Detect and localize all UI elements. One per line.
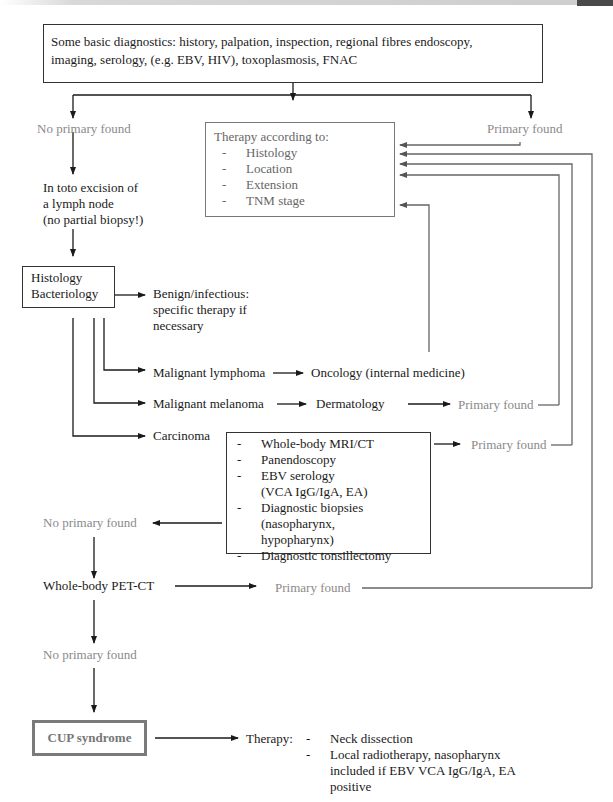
- workup-item: -EBV serology: [231, 468, 391, 484]
- histology-label: Histology: [31, 270, 82, 286]
- cup-therapy-item-cont: positive: [300, 779, 516, 795]
- benign-line1: Benign/infectious:: [153, 286, 249, 302]
- benign-line2: specific therapy if: [153, 302, 247, 318]
- cup-therapy-item: -Neck dissection: [300, 731, 516, 747]
- no-primary-found-1: No primary found: [37, 121, 131, 137]
- therapy-criterion: -Extension: [216, 177, 305, 193]
- primary-found-workup: Primary found: [471, 437, 546, 453]
- no-primary-found-2: No primary found: [43, 515, 137, 531]
- malignant-melanoma: Malignant melanoma: [153, 396, 264, 412]
- therapy-criterion: -Histology: [216, 145, 305, 161]
- dermatology: Dermatology: [316, 396, 385, 412]
- cup-therapy-label: Therapy:: [246, 731, 293, 747]
- no-primary-found-3: No primary found: [43, 647, 137, 663]
- basic-diagnostics-box: Some basic diagnostics: history, palpati…: [43, 24, 543, 83]
- workup-item: -Diagnostic biopsies: [231, 500, 391, 516]
- cup-therapy-list: -Neck dissection -Local radiotherapy, na…: [300, 731, 516, 795]
- bacteriology-label: Bacteriology: [31, 286, 98, 302]
- cup-therapy-item-cont: included if EBV VCA IgG/IgA, EA: [300, 763, 516, 779]
- basic-diagnostics-line1: Some basic diagnostics: history, palpati…: [51, 34, 472, 50]
- oncology: Oncology (internal medicine): [311, 365, 465, 381]
- cup-syndrome-box: CUP syndrome: [32, 720, 147, 756]
- therapy-box: Therapy according to: -Histology -Locati…: [205, 122, 395, 217]
- workup-item-cont: (nasopharynx,: [231, 516, 391, 532]
- histology-box: Histology Bacteriology: [22, 266, 115, 308]
- therapy-criteria-list: -Histology -Location -Extension -TNM sta…: [216, 145, 305, 209]
- workup-item-cont: (VCA IgG/IgA, EA): [231, 484, 391, 500]
- therapy-criterion: -TNM stage: [216, 193, 305, 209]
- excision-line1: In toto excision of: [43, 180, 138, 196]
- therapy-criterion: -Location: [216, 161, 305, 177]
- therapy-title: Therapy according to:: [214, 129, 329, 145]
- primary-found-pet: Primary found: [275, 580, 350, 596]
- workup-item: -Diagnostic tonsillectomy: [231, 548, 391, 564]
- benign-line3: necessary: [153, 318, 204, 334]
- malignant-lymphoma: Malignant lymphoma: [153, 365, 265, 381]
- primary-found-top: Primary found: [487, 121, 562, 137]
- carcinoma: Carcinoma: [153, 428, 210, 444]
- workup-item-cont: hypopharynx): [231, 532, 391, 548]
- whole-body-pet-ct: Whole-body PET-CT: [43, 578, 154, 594]
- workup-list: -Whole-body MRI/CT -Panendoscopy -EBV se…: [231, 436, 391, 564]
- basic-diagnostics-line2: imaging, serology, (e.g. EBV, HIV), toxo…: [51, 52, 357, 68]
- excision-line2: a lymph node: [43, 196, 114, 212]
- cup-therapy-item: -Local radiotherapy, nasopharynx: [300, 747, 516, 763]
- workup-item: -Panendoscopy: [231, 452, 391, 468]
- excision-line3: (no partial biopsy!): [43, 212, 143, 228]
- carcinoma-workup-box: -Whole-body MRI/CT -Panendoscopy -EBV se…: [226, 432, 431, 554]
- primary-found-dermatology: Primary found: [458, 397, 533, 413]
- workup-item: -Whole-body MRI/CT: [231, 436, 391, 452]
